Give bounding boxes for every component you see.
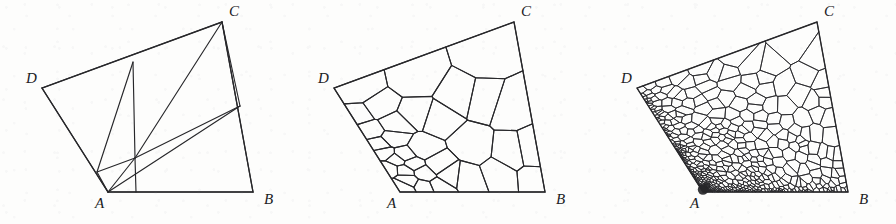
vertex-label-a: A bbox=[689, 195, 700, 211]
mesh-cell bbox=[734, 138, 746, 143]
mesh-cell bbox=[715, 187, 718, 189]
mesh-cell bbox=[760, 43, 791, 76]
mesh-cell bbox=[467, 78, 505, 126]
mesh-cell bbox=[675, 106, 694, 115]
mesh-cell bbox=[682, 153, 686, 156]
mesh-cell bbox=[802, 186, 807, 190]
mesh-edge bbox=[135, 106, 240, 158]
singular-corner-halo bbox=[704, 182, 711, 189]
mesh-cell bbox=[748, 186, 752, 190]
mesh-cell bbox=[407, 131, 447, 160]
mesh-cell bbox=[738, 125, 750, 134]
mesh-cell bbox=[404, 156, 426, 170]
mesh-cell bbox=[741, 73, 760, 89]
mesh-cell bbox=[727, 130, 736, 138]
mesh-cell bbox=[384, 47, 451, 97]
mesh-cell bbox=[697, 162, 704, 166]
mesh-cell bbox=[798, 163, 810, 176]
mesh-cells bbox=[637, 22, 848, 192]
mesh-cell bbox=[739, 172, 746, 178]
mesh-cell bbox=[781, 174, 792, 184]
mesh-cell bbox=[836, 185, 841, 192]
mesh-cell bbox=[831, 167, 839, 178]
vertex-label-c: C bbox=[824, 3, 835, 19]
mesh-cell bbox=[687, 129, 695, 137]
mesh-cell bbox=[823, 187, 828, 192]
mesh-cell bbox=[717, 75, 741, 92]
mesh-cell bbox=[733, 149, 744, 157]
mesh-cell bbox=[357, 119, 384, 139]
mesh-cell bbox=[432, 65, 476, 119]
mesh-cell bbox=[746, 169, 752, 176]
mesh-cell bbox=[750, 183, 755, 187]
mesh-cell bbox=[334, 70, 388, 104]
mesh-cell bbox=[725, 178, 733, 184]
panel-fine: ABCD bbox=[620, 3, 868, 211]
mesh-cell bbox=[688, 148, 693, 153]
mesh-cell bbox=[679, 151, 682, 153]
mesh-cell bbox=[344, 103, 375, 125]
mesh-cell bbox=[799, 32, 826, 71]
vertex-label-a: A bbox=[94, 195, 105, 211]
vertex-label-c: C bbox=[229, 3, 240, 19]
mesh-cell bbox=[680, 141, 687, 146]
mesh-cell bbox=[779, 114, 794, 129]
vertex-label-d: D bbox=[620, 70, 632, 86]
mesh-cell bbox=[446, 22, 523, 79]
mesh-cell bbox=[790, 61, 819, 87]
mesh-cell bbox=[730, 154, 739, 163]
mesh-cell bbox=[683, 137, 694, 144]
mesh-cell bbox=[778, 139, 790, 151]
mesh-cell bbox=[716, 141, 729, 149]
mesh-cell bbox=[728, 123, 739, 132]
mesh-cell bbox=[688, 156, 695, 160]
mesh-cell bbox=[414, 165, 437, 182]
mesh-cell bbox=[457, 160, 489, 192]
mesh-edges bbox=[42, 22, 253, 192]
mesh-cell bbox=[699, 116, 712, 129]
mesh-cell bbox=[699, 143, 710, 151]
mesh-cell bbox=[766, 165, 776, 174]
vertex-label-c: C bbox=[521, 3, 532, 19]
mesh-cell bbox=[363, 87, 402, 120]
mesh-cell bbox=[707, 107, 726, 118]
mesh-cell bbox=[758, 128, 774, 142]
mesh-cell bbox=[445, 120, 494, 165]
mesh-cell bbox=[674, 89, 687, 101]
mesh-cell bbox=[813, 187, 820, 192]
mesh-edge bbox=[97, 62, 133, 172]
mesh-cell bbox=[725, 187, 729, 190]
mesh-cell bbox=[763, 149, 773, 159]
mesh-cell bbox=[809, 181, 816, 190]
mesh-cells bbox=[334, 22, 545, 192]
mesh-cell bbox=[659, 116, 665, 120]
mesh-cell bbox=[719, 128, 728, 135]
mesh-cell bbox=[795, 151, 808, 163]
mesh-refinement-figure: ABCDABCDABCD bbox=[0, 0, 896, 224]
mesh-cell bbox=[397, 96, 433, 131]
mesh-cell bbox=[747, 104, 763, 114]
mesh-cell bbox=[706, 174, 712, 178]
mesh-cell bbox=[805, 160, 821, 170]
mesh-cell bbox=[479, 157, 518, 192]
mesh-cell bbox=[694, 174, 698, 176]
mesh-cell bbox=[718, 186, 721, 189]
mesh-cell bbox=[491, 130, 524, 171]
mesh-edge bbox=[133, 62, 135, 158]
vertex-label-b: B bbox=[556, 191, 565, 207]
mesh-cell bbox=[490, 71, 533, 131]
mesh-edge bbox=[135, 158, 136, 192]
mesh-cell bbox=[422, 98, 467, 140]
mesh-cell bbox=[808, 141, 821, 155]
mesh-edge bbox=[108, 106, 240, 192]
mesh-cell bbox=[717, 151, 730, 159]
vertex-label-b: B bbox=[859, 191, 868, 207]
mesh-cell bbox=[729, 96, 748, 112]
mesh-cell bbox=[779, 178, 789, 186]
mesh-cell bbox=[756, 179, 763, 183]
mesh-cell bbox=[750, 176, 756, 181]
mesh-cell bbox=[820, 158, 833, 169]
mesh-cell bbox=[751, 162, 759, 167]
mesh-cell bbox=[789, 141, 800, 152]
mesh-cell bbox=[671, 98, 682, 108]
